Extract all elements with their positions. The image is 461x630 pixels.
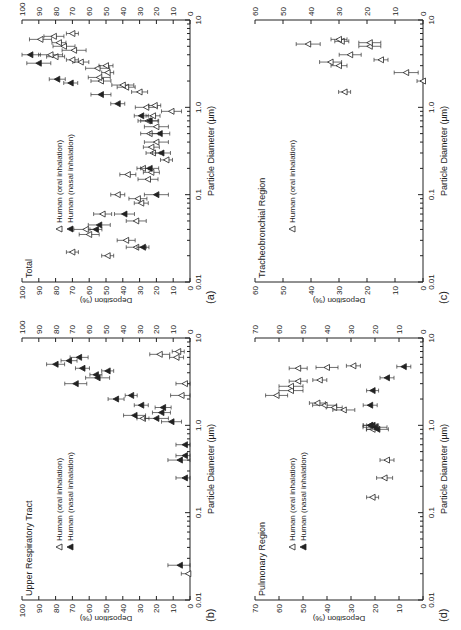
y-axis-label: Deposition (%) [79,296,132,305]
y-tick-label: 70 [251,603,260,612]
data-point [115,192,121,198]
data-point [384,375,390,381]
data-point [71,47,77,53]
y-tick-label: 60 [275,603,284,612]
y-tick-label: 40 [323,603,332,612]
y-tick-label-right: 10 [169,7,178,16]
x-tick-label: 1.0 [194,419,203,431]
y-tick-label-right: 40 [323,325,332,334]
y-tick-label: 30 [136,285,145,294]
data-point [37,36,43,42]
y-tick-label-right: 70 [251,325,260,334]
y-tick-label-right: 40 [119,325,128,334]
data-point [295,365,301,371]
data-point [96,74,102,80]
data-point [133,218,139,224]
panel-upper-respiratory-tract: 0010102020303040405050606070708080909010… [0,318,230,628]
data-point [403,70,409,76]
data-point [157,131,163,137]
y-tick-label: 70 [68,603,77,612]
data-point [105,368,111,374]
filled-triangle-icon [300,544,306,550]
data-point [342,89,348,95]
y-tick-label-right: 100 [18,320,27,334]
y-tick-label-right: 80 [52,7,61,16]
data-point [68,80,74,86]
legend-entry: Human (nasal inhalation) [66,452,75,541]
y-tick-label: 30 [347,603,356,612]
legend-entry: Human (nasal inhalation) [66,134,75,223]
data-point [83,226,89,232]
y-tick-label: 20 [152,603,161,612]
y-tick-label-right: 50 [279,7,288,16]
y-tick-label-right: 30 [335,7,344,16]
panel-title: Tracheobronchial Region [257,178,267,278]
y-tick-label: 100 [18,603,27,617]
y-tick-label-right: 0 [186,11,195,16]
data-point [160,405,166,411]
data-point [140,244,146,250]
x-tick-label: 1.0 [194,101,203,113]
y-tick-label-right: 60 [85,325,94,334]
data-point [143,104,149,110]
data-point [175,349,181,355]
x-tick-label: 0.01 [427,592,436,608]
y-tick-label: 60 [85,285,94,294]
panel-tracheobronchial-region: 001010202030304040505060600.010.11.010Pa… [233,0,461,310]
panel-total: 0010102020303040405050606070708080909010… [0,0,230,310]
panel-label: (d) [437,609,449,622]
y-tick-label: 40 [119,603,128,612]
y-tick-label: 100 [18,285,27,299]
y-tick-label: 80 [52,603,61,612]
filled-triangle-icon [67,226,73,232]
x-tick-label: 1.0 [427,101,436,113]
y-tick-label-right: 30 [347,325,356,334]
data-point [145,176,151,182]
x-tick-label: 0.01 [194,274,203,290]
data-point [347,52,353,58]
panel-label: (c) [437,291,449,304]
data-point [132,412,138,418]
data-point [185,571,191,577]
data-point [79,365,85,371]
y-tick-label-right: 30 [136,7,145,16]
panel-pulmonary-region: 0010102020303040405050606070700.010.11.0… [233,318,461,628]
y-tick-label-right: 0 [419,11,428,16]
data-point [86,231,92,237]
data-point [317,377,323,383]
y-tick-label: 20 [371,603,380,612]
y-tick-label-right: 10 [169,325,178,334]
y-tick-label-right: 0 [419,329,428,334]
y-tick-label-right: 20 [152,7,161,16]
y-tick-label-right: 40 [119,7,128,16]
data-point [27,52,33,58]
y-tick-label-right: 10 [391,7,400,16]
data-point [54,76,60,82]
y-tick-label-right: 70 [68,325,77,334]
data-point [125,172,131,178]
data-point [384,457,390,463]
x-tick-label: 0.1 [194,507,203,519]
data-point [105,70,111,76]
y-tick-label-right: 50 [102,325,111,334]
data-point [179,392,185,398]
y-axis-label: Deposition (%) [312,296,365,305]
data-point [158,410,164,416]
data-point [113,396,119,402]
x-tick-label: 10 [427,15,436,24]
panel-title: Total [24,259,34,278]
x-axis-label: Particle Diameter (µm) [206,424,216,514]
legend-entry: Human (oral inhalation) [288,140,297,223]
data-point [115,101,121,107]
data-point [295,378,301,384]
y-tick-label: 70 [68,285,77,294]
data-point [158,150,164,156]
data-point [137,89,143,95]
data-point [350,363,356,369]
data-point [147,165,153,171]
open-triangle-icon [289,226,295,232]
open-triangle-icon [56,544,62,550]
y-tick-label-right: 70 [68,7,77,16]
y-tick-label: 60 [85,603,94,612]
x-tick-label: 0.1 [427,507,436,519]
